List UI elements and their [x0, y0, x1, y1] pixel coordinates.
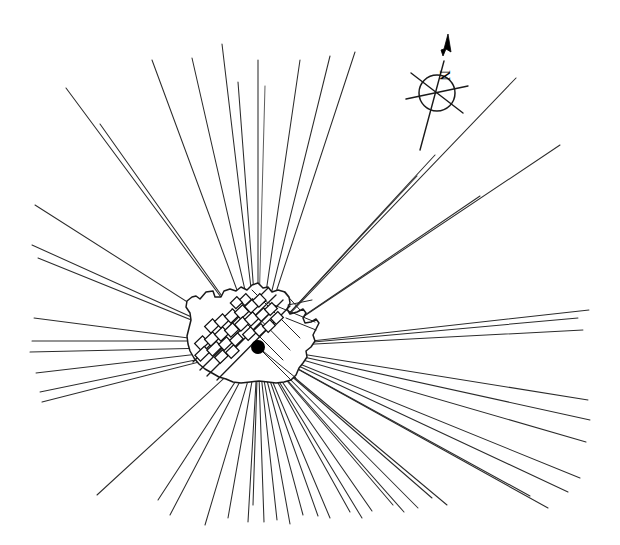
- central-landmark-dot: [251, 340, 265, 354]
- compass-rose: N: [406, 34, 468, 150]
- radial-road: [258, 347, 568, 492]
- map-canvas: N: [0, 0, 620, 545]
- map-figure: N: [0, 0, 620, 545]
- compass-north-label: N: [437, 70, 453, 81]
- town-settlement: [186, 283, 319, 383]
- radial-road: [258, 347, 580, 478]
- radial-roads-group: [30, 44, 590, 525]
- radial-road: [258, 347, 588, 400]
- north-arrow-icon: [441, 34, 451, 56]
- radial-road: [258, 347, 590, 420]
